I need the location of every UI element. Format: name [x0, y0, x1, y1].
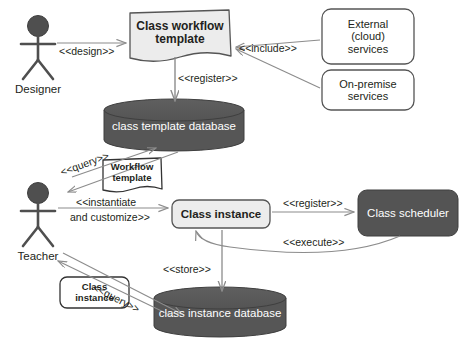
diagram-canvas: <<query>> <<query>> Designer Teacher Cla…	[0, 0, 476, 348]
edge-label-instantiate-line1: <<instantiate	[76, 196, 136, 208]
node-external-cloud-services-label: External (cloud) services	[322, 9, 414, 64]
actor-designer-icon	[21, 16, 55, 80]
edge-label-store: <<store>>	[163, 263, 211, 275]
node-class-instance-label: Class instance	[172, 200, 270, 228]
node-class-instance-database-label: class instance database	[154, 300, 286, 326]
actor-teacher-label: Teacher	[8, 250, 68, 262]
edge-label-register-top: <<register>>	[178, 72, 238, 84]
actor-teacher-icon	[21, 183, 55, 247]
edge-label-execute: <<execute>>	[283, 236, 344, 248]
edge-label-instantiate-line2: and customize>>	[70, 211, 150, 223]
edge-label-include: <<include>>	[239, 42, 297, 54]
node-class-template-database-label: class template database	[104, 112, 244, 140]
node-workflow-template-artifact-label: Workflow template	[103, 159, 161, 187]
edge-include-onpremise	[236, 49, 320, 88]
node-class-workflow-template-label: Class workflow template	[130, 12, 230, 54]
edge-label-design: <<design>>	[59, 45, 114, 57]
node-class-scheduler-label: Class scheduler	[358, 190, 458, 236]
node-class-instance-artifact-label: Class instance	[60, 277, 129, 308]
edge-label-register-right: <<register>>	[283, 197, 343, 209]
node-on-premise-services-label: On-premise services	[322, 70, 414, 110]
actor-designer-label: Designer	[8, 83, 68, 95]
